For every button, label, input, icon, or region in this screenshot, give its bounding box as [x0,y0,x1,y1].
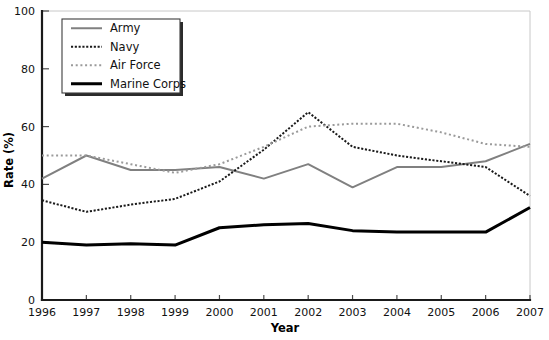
x-tick-label: 2004 [383,306,411,319]
y-tick-label: 100 [14,5,35,18]
chart-canvas: 0204060801001996199719981999200020012002… [0,0,549,340]
x-tick-label: 2007 [516,306,544,319]
y-tick-label: 20 [21,236,35,249]
x-tick-label: 2000 [205,306,233,319]
x-tick-label: 2002 [294,306,322,319]
x-tick-label: 1999 [161,306,189,319]
legend-label-navy: Navy [110,40,139,54]
series-line-army [42,144,530,187]
x-tick-label: 1998 [117,306,145,319]
x-tick-label: 2003 [339,306,367,319]
y-tick-label: 40 [21,178,35,191]
legend-label-air-force: Air Force [110,58,161,72]
y-axis-title: Rate (%) [2,132,16,188]
series-line-navy [42,112,530,212]
x-tick-label: 1996 [28,306,56,319]
series-line-marine-corps [42,208,530,246]
data-series-group [42,112,530,245]
y-tick-label: 80 [21,63,35,76]
y-tick-label: 60 [21,121,35,134]
x-tick-label: 2006 [472,306,500,319]
x-tick-label: 2005 [427,306,455,319]
x-tick-label: 1997 [72,306,100,319]
legend-label-marine-corps: Marine Corps [110,77,186,91]
x-tick-label: 2001 [250,306,278,319]
legend-label-army: Army [110,21,141,35]
line-chart: 0204060801001996199719981999200020012002… [0,0,549,340]
chart-legend: ArmyNavyAir ForceMarine Corps [62,19,186,96]
x-axis-title: Year [270,321,300,335]
